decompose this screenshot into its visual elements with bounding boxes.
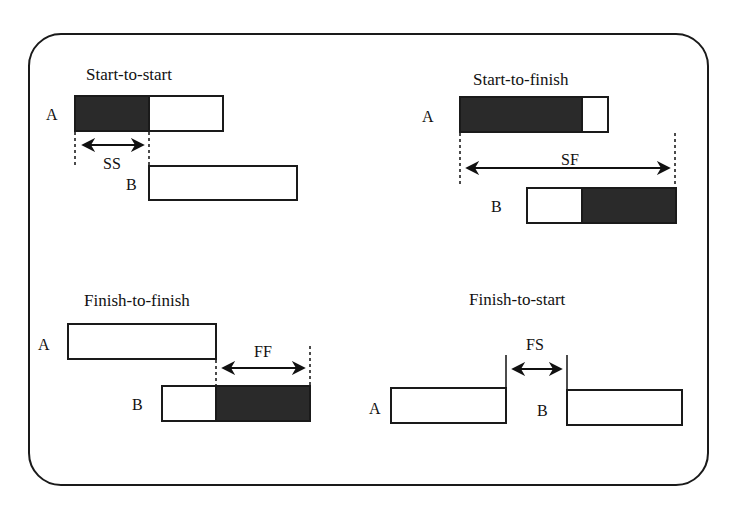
activity-b-bar: [567, 390, 682, 425]
activity-a-label: A: [422, 108, 434, 125]
panel-finish-to-finish: Finish-to-finish A FF B: [38, 291, 310, 421]
lag-label: SF: [561, 151, 579, 168]
panel-title: Start-to-start: [86, 65, 172, 84]
lag-label: FS: [526, 336, 544, 353]
activity-a-label: A: [369, 400, 381, 417]
lag-label: FF: [254, 343, 272, 360]
activity-b-label: B: [126, 176, 137, 193]
lag-label: SS: [103, 155, 121, 172]
activity-a-bar: [391, 388, 506, 423]
panel-start-to-start: Start-to-start A SS B: [46, 65, 297, 200]
activity-b-bar: [149, 166, 297, 200]
activity-b-bar: [162, 386, 310, 421]
activity-a-bar: [460, 97, 608, 132]
activity-a-label: A: [38, 336, 50, 353]
panel-title: Finish-to-finish: [84, 291, 190, 310]
activity-a-bar: [68, 324, 216, 359]
panel-start-to-finish: Start-to-finish A SF B: [422, 70, 676, 223]
activity-b-label: B: [537, 402, 548, 419]
activity-b-bar: [527, 188, 676, 223]
activity-a-bar: [75, 96, 223, 131]
dependency-types-diagram: Start-to-start A SS B Start-to-finish A …: [0, 0, 733, 514]
panel-title: Finish-to-start: [469, 290, 566, 309]
panel-finish-to-start: Finish-to-start A FS B: [369, 290, 682, 425]
activity-b-label: B: [491, 198, 502, 215]
panel-title: Start-to-finish: [473, 70, 569, 89]
activity-a-label: A: [46, 106, 58, 123]
activity-b-label: B: [132, 396, 143, 413]
